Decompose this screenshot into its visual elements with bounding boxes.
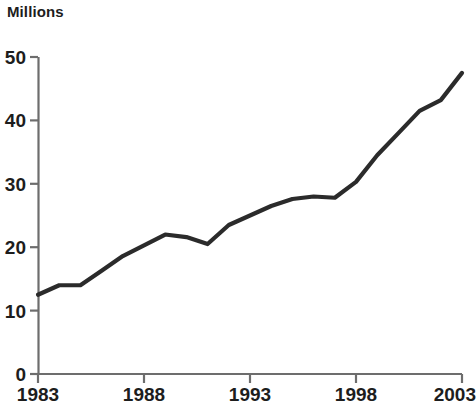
line-chart: Millions 01020304050 1983198819931998200… [0, 0, 476, 405]
x-tick-label: 1993 [229, 384, 271, 405]
x-tick-label: 1983 [17, 384, 59, 405]
x-tick-label: 1998 [335, 384, 377, 405]
x-tick-label: 1988 [123, 384, 165, 405]
y-axis-ticks: 01020304050 [5, 47, 38, 385]
plot-area: 01020304050 19831988199319982003 [0, 0, 476, 405]
y-tick-label: 10 [5, 301, 26, 322]
x-axis-ticks: 19831988199319982003 [17, 374, 476, 405]
y-tick-label: 40 [5, 110, 26, 131]
data-series-line [38, 73, 462, 295]
y-tick-label: 20 [5, 237, 26, 258]
y-tick-label: 30 [5, 174, 26, 195]
x-tick-label: 2003 [434, 384, 476, 405]
y-tick-label: 0 [15, 364, 26, 385]
y-tick-label: 50 [5, 47, 26, 68]
